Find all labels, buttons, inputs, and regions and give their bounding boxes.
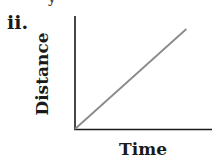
distance-time-line	[75, 29, 186, 129]
y-axis-label: Distance	[32, 32, 52, 115]
x-axis-label: Time	[119, 139, 167, 159]
